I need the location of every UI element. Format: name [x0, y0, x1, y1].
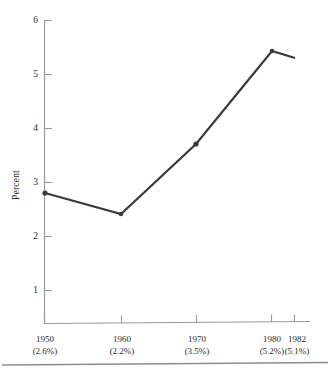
data-point-1970: [193, 141, 198, 146]
y-tick-label-2: 2: [24, 231, 38, 241]
data-point-1980: [270, 49, 275, 54]
x-tick-pct-1960: (2.2%): [97, 345, 147, 357]
x-tick-label-1982: 1982 (5.1%): [272, 333, 322, 357]
data-point-1950: [42, 190, 47, 195]
x-tick-year-1960: 1960: [97, 333, 147, 345]
chart-canvas: [0, 0, 330, 376]
bottom-divider-rule: [2, 363, 328, 366]
x-tick-label-1950: 1950 (2.6%): [20, 333, 70, 357]
y-tick-label-4: 4: [24, 123, 38, 133]
y-tick-label-5: 5: [24, 69, 38, 79]
y-tick-label-3: 3: [24, 177, 38, 187]
x-tick-pct-1970: (3.5%): [172, 345, 222, 357]
x-tick-year-1950: 1950: [20, 333, 70, 345]
y-axis-title: Percent: [8, 150, 24, 220]
x-tick-year-1970: 1970: [172, 333, 222, 345]
x-tick-label-1960: 1960 (2.2%): [97, 333, 147, 357]
y-tick-label-1: 1: [24, 285, 38, 295]
x-axis-line: [45, 322, 311, 324]
x-tick-pct-1950: (2.6%): [20, 345, 70, 357]
line-chart-figure: Percent 6 5 4 3 2 1 1950 (2.6%) 1960 (2.…: [0, 0, 330, 376]
x-tick-year-1982: 1982: [272, 333, 322, 345]
data-point-1960: [119, 212, 124, 217]
x-tick-label-1970: 1970 (3.5%): [172, 333, 222, 357]
y-tick-label-6: 6: [24, 15, 38, 25]
y-axis-title-text: Percent: [11, 170, 21, 200]
data-series-line: [45, 51, 295, 214]
x-tick-pct-1982: (5.1%): [272, 345, 322, 357]
